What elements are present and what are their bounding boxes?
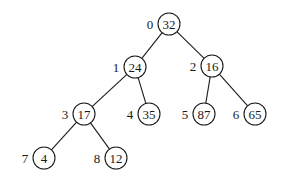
node-value: 87	[198, 107, 212, 122]
node-index-label: 2	[190, 59, 197, 74]
heap-tree-diagram: 32024116217335487565647128	[0, 0, 287, 179]
tree-edge	[219, 74, 247, 106]
tree-node: 162	[190, 55, 223, 77]
node-index-label: 1	[113, 60, 120, 75]
node-index-label: 7	[22, 151, 29, 166]
tree-edge	[92, 74, 127, 106]
node-index-label: 6	[233, 107, 240, 122]
node-value: 32	[163, 17, 176, 32]
tree-node: 875	[182, 103, 215, 125]
node-index-label: 3	[62, 107, 69, 122]
tree-node: 320	[147, 13, 180, 35]
node-index-label: 0	[147, 17, 154, 32]
node-index-label: 8	[94, 151, 101, 166]
node-value: 16	[206, 59, 220, 74]
tree-node: 241	[113, 56, 146, 78]
tree-node: 354	[127, 103, 160, 125]
tree-nodes: 32024116217335487565647128	[22, 13, 266, 169]
node-index-label: 4	[127, 107, 134, 122]
tree-edge	[90, 123, 109, 149]
tree-edge	[138, 78, 146, 104]
tree-edge	[206, 77, 210, 103]
node-index-label: 5	[182, 107, 189, 122]
node-value: 65	[249, 107, 262, 122]
tree-edge	[142, 33, 162, 59]
node-value: 4	[41, 151, 48, 166]
tree-node: 656	[233, 103, 266, 125]
node-value: 17	[78, 107, 92, 122]
tree-node: 128	[94, 147, 127, 169]
node-value: 12	[110, 151, 123, 166]
node-value: 35	[143, 107, 156, 122]
tree-node: 173	[62, 103, 95, 125]
tree-edge	[177, 32, 204, 59]
tree-edge	[51, 122, 76, 150]
tree-node: 47	[22, 147, 55, 169]
tree-edges	[51, 32, 247, 150]
node-value: 24	[129, 60, 143, 75]
